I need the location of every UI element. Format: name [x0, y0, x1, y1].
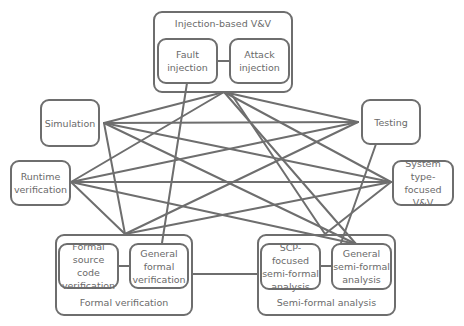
system-type-focused-vv-node[interactable]: System type- focused V&V: [392, 160, 454, 206]
semi-group-label: Semi-formal analysis: [259, 296, 394, 309]
general-semi-formal-analysis-node[interactable]: General semi-formal analysis: [331, 243, 392, 290]
scp-focused-semi-formal-analysis-node[interactable]: SCP-focused semi-formal analysis: [260, 243, 321, 290]
formal-group-label: Formal verification: [57, 296, 191, 309]
runtime-verification-node[interactable]: Runtime verification: [10, 160, 71, 206]
injection-group-label: Injection-based V&V: [155, 17, 291, 30]
formal-source-code-verification-node[interactable]: Formal source code verification: [58, 243, 119, 289]
testing-node[interactable]: Testing: [361, 99, 421, 145]
general-formal-verification-node[interactable]: General formal verification: [129, 243, 189, 289]
fault-injection-node[interactable]: Fault injection: [157, 38, 218, 84]
simulation-node[interactable]: Simulation: [40, 99, 100, 147]
attack-injection-node[interactable]: Attack injection: [229, 38, 290, 84]
